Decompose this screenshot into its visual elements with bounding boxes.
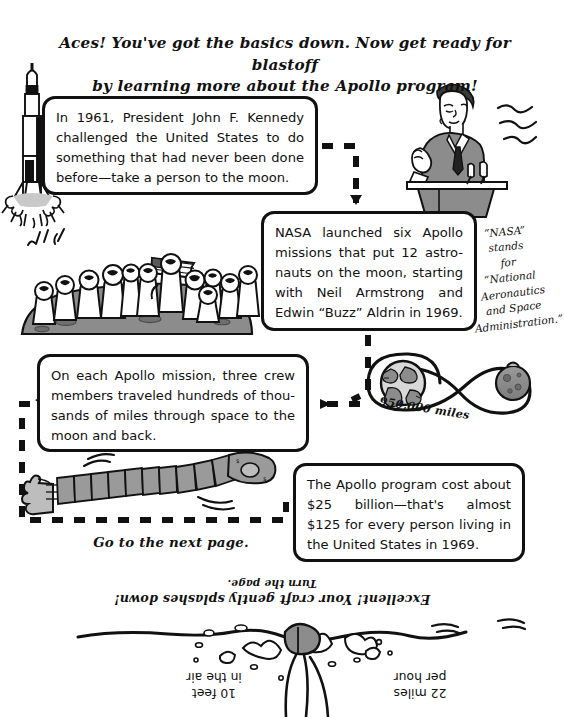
distance-label: 950,000 miles [378, 393, 507, 429]
box-crew: On each Apollo mission, three crew membe… [37, 354, 309, 452]
splashdown-message: Excellent! Your craft gently splashes do… [0, 592, 544, 607]
turn-the-page-text: Turn the page. [0, 578, 544, 590]
connector-2 [352, 335, 368, 400]
box-kennedy: In 1961, President John F. Kennedy chall… [42, 96, 318, 195]
hand-holding-dollar-bills-illustration: $ $ [22, 453, 275, 515]
svg-text:$: $ [263, 476, 267, 482]
headline-line-1: Aces! You've got the basics down. Now ge… [59, 34, 511, 74]
headline-line-2: by learning more about the Apollo progra… [52, 76, 518, 98]
box-nasa-missions: NASA launched six Apollo missions that p… [261, 211, 477, 331]
nasa-acronym-note: “NASA” stands for “National Aeronautics … [473, 221, 548, 336]
speed-label: 22 miles per hour [366, 668, 474, 701]
nasa-note-line-2: for “National [477, 252, 542, 289]
height-label-line-1: 10 feet [160, 684, 268, 700]
height-label-line-2: in the air [160, 668, 268, 684]
twelve-astronauts-on-moon-illustration [22, 229, 259, 334]
page-headline: Aces! You've got the basics down. Now ge… [52, 33, 518, 98]
svg-text:$: $ [236, 458, 240, 464]
connector-1 [322, 146, 356, 203]
height-label: 10 feet in the air [160, 668, 268, 701]
speed-label-line-2: per hour [366, 668, 474, 684]
box-cost: The Apollo program cost about $25 billio… [293, 463, 525, 562]
jfk-at-podium-illustration [407, 84, 536, 217]
next-page-instruction: Go to the next page. [60, 534, 282, 550]
speed-label-line-1: 22 miles [366, 684, 474, 700]
